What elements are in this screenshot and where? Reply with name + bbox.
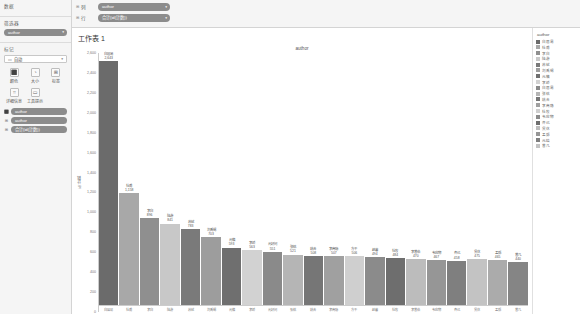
legend-item[interactable]: 元结 xyxy=(536,138,577,143)
bar[interactable] xyxy=(365,257,384,305)
bar-column[interactable]: 李曾伯470 xyxy=(406,53,425,305)
bar[interactable] xyxy=(283,255,302,305)
legend-item[interactable]: 贯休 xyxy=(536,126,577,131)
legend-item[interactable]: 姚合 xyxy=(536,97,577,102)
bar-column[interactable]: 贯休475 xyxy=(467,53,486,305)
bar[interactable] xyxy=(406,259,425,305)
legend-item[interactable]: 苏轼 xyxy=(536,62,577,67)
bar[interactable] xyxy=(427,260,446,305)
bar-column[interactable]: 张祜521 xyxy=(283,53,302,305)
bar-column[interactable]: 陆游841 xyxy=(160,53,179,305)
columns-shelf-dropzone[interactable]: author ▾ xyxy=(98,3,576,11)
bar[interactable] xyxy=(222,248,241,305)
rows-shelf[interactable]: ⊞ 行 合计(id(计数)) ▾ xyxy=(76,13,576,22)
columns-shelf[interactable]: ⊞ 列 author ▾ xyxy=(76,2,576,11)
bar[interactable] xyxy=(467,259,486,305)
bar[interactable] xyxy=(119,193,138,305)
chevron-down-icon[interactable]: ▾ xyxy=(165,3,167,11)
legend-item[interactable]: 张祜 xyxy=(536,91,577,96)
bar-column[interactable]: 孟郊465 xyxy=(488,53,507,305)
legend-color-swatch xyxy=(536,92,540,96)
legend-item[interactable]: 李峤 xyxy=(536,80,577,85)
bar-column[interactable]: 曾几440 xyxy=(508,53,527,305)
legend-item[interactable]: 曾几 xyxy=(536,143,577,148)
bar-series: 白居易2,643杜甫1,158李白896陆游841苏轼783刘禹锡703元稹59… xyxy=(99,53,528,306)
bar-column[interactable]: 姚合508 xyxy=(304,53,323,305)
marks-button-size[interactable]: ◔ 大小 xyxy=(25,67,46,85)
x-axis-tick: 孟郊 xyxy=(488,307,507,312)
marks-pill-label-author[interactable]: ⊞ author xyxy=(4,117,67,124)
bar[interactable] xyxy=(160,224,179,306)
bar-column[interactable]: 杜牧484 xyxy=(386,53,405,305)
bar[interactable] xyxy=(242,250,261,305)
bar[interactable] xyxy=(99,61,118,305)
bar-column[interactable]: 方干506 xyxy=(345,53,364,305)
marks-button-tooltip[interactable]: ▭ 工具提示 xyxy=(25,87,46,105)
legend-item[interactable]: 元稹 xyxy=(536,74,577,79)
bar[interactable] xyxy=(324,256,343,305)
columns-pill-author[interactable]: author ▾ xyxy=(98,3,170,11)
rows-shelf-text: 行 xyxy=(81,15,86,21)
bar-column[interactable]: 元稹593 xyxy=(222,53,241,305)
bar[interactable] xyxy=(140,218,159,305)
marks-button-label[interactable]: ⊞ 标签 xyxy=(46,67,67,85)
legend-item[interactable]: 孟郊 xyxy=(536,132,577,137)
chevron-down-icon[interactable]: ▾ xyxy=(62,29,64,36)
legend-item[interactable]: 刘禹锡 xyxy=(536,68,577,73)
rows-pill-count[interactable]: 合计(id(计数)) ▾ xyxy=(98,14,170,22)
bar-value-label: 551 xyxy=(270,248,276,252)
mark-type-dropdown[interactable]: ▭ 自动 ▾ xyxy=(4,55,67,63)
bar[interactable] xyxy=(201,237,220,305)
legend-item[interactable]: 杜甫 xyxy=(536,45,577,50)
viz-wrapper: 工作表 1 author id 计数 2,6002,4002,2002,0001… xyxy=(72,28,580,314)
x-axis-tick: 杜甫 xyxy=(119,307,138,312)
filter-pill-author[interactable]: author ▾ xyxy=(4,29,67,36)
size-icon: ◔ xyxy=(31,68,40,77)
marks-button-detail[interactable]: ⌗ 详细信息 xyxy=(4,87,25,105)
marks-button-color[interactable]: ⬛ 颜色 xyxy=(4,67,25,85)
bar-column[interactable]: 李白896 xyxy=(140,53,159,305)
rows-shelf-dropzone[interactable]: 合计(id(计数)) ▾ xyxy=(98,14,576,22)
bar[interactable] xyxy=(488,260,507,305)
bar[interactable] xyxy=(263,252,282,305)
chevron-down-icon[interactable]: ▾ xyxy=(61,57,63,61)
legend-color-swatch xyxy=(536,86,540,90)
legend-item[interactable]: 白居易 xyxy=(536,85,577,90)
legend-item[interactable]: 李商隐 xyxy=(536,103,577,108)
bar[interactable] xyxy=(508,262,527,305)
marks-pill-label-count[interactable]: ⊞ 合计(id(计数)) xyxy=(4,126,67,133)
legend-color-swatch xyxy=(536,80,540,84)
x-axis-tick: 元稹 xyxy=(222,307,241,312)
bar-column[interactable]: 赵蕃494 xyxy=(365,53,384,305)
worksheet-title: 工作表 1 xyxy=(78,33,528,43)
bar[interactable] xyxy=(345,256,364,305)
bar-column[interactable]: 李商隐507 xyxy=(324,53,343,305)
bar-column[interactable]: 刘禹锡703 xyxy=(201,53,220,305)
bar[interactable] xyxy=(181,229,200,305)
legend-item[interactable]: 韦应物 xyxy=(536,114,577,119)
chevron-down-icon[interactable]: ▾ xyxy=(165,14,167,22)
y-axis-title: id 计数 xyxy=(76,53,83,312)
y-axis-tick: 200 xyxy=(90,290,96,294)
bar-column[interactable]: 齐己458 xyxy=(447,53,466,305)
bar[interactable] xyxy=(304,256,323,305)
marks-pill-label: author xyxy=(11,117,67,124)
rows-pill-label: 合计(id(计数)) xyxy=(102,15,127,20)
bar-value-label: 508 xyxy=(311,252,317,256)
legend-item[interactable]: 陆游 xyxy=(536,56,577,61)
bar-column[interactable]: 李峤563 xyxy=(242,53,261,305)
bar[interactable] xyxy=(447,261,466,305)
legend-item[interactable]: 杜牧 xyxy=(536,109,577,114)
bar-column[interactable]: 苏轼783 xyxy=(181,53,200,305)
bar-column[interactable]: 白居易2,643 xyxy=(99,53,118,305)
legend-item[interactable]: 白居易 xyxy=(536,39,577,44)
bar-column[interactable]: 韦应物467 xyxy=(427,53,446,305)
bar-column[interactable]: 元好问551 xyxy=(263,53,282,305)
marks-pill-color-author[interactable]: ⬛ author xyxy=(4,108,67,115)
columns-shelf-text: 列 xyxy=(81,4,86,10)
legend-item[interactable]: 齐己 xyxy=(536,120,577,125)
plot-area: id 计数 2,6002,4002,2002,0001,8001,6001,40… xyxy=(76,53,528,312)
legend-item[interactable]: 李白 xyxy=(536,51,577,56)
bar[interactable] xyxy=(386,258,405,305)
bar-column[interactable]: 杜甫1,158 xyxy=(119,53,138,305)
